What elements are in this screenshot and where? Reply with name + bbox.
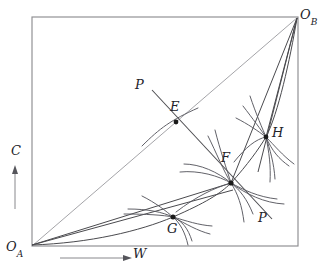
point-label-h: H bbox=[272, 126, 283, 139]
w-axis-arrow-head bbox=[123, 255, 132, 261]
edgeworth-box-figure: OB OA C W P E F G H P bbox=[0, 0, 331, 271]
c-axis-arrow-head bbox=[12, 165, 18, 174]
c-axis-label: C bbox=[11, 144, 21, 157]
point-h bbox=[264, 135, 269, 140]
origin-ob-subscript: B bbox=[311, 17, 318, 27]
point-e bbox=[174, 120, 179, 125]
point-label-f: F bbox=[221, 151, 230, 164]
indifference-curve-g-d1 bbox=[173, 217, 212, 226]
point-label-g: G bbox=[167, 222, 177, 235]
ray-oa-lower bbox=[32, 190, 233, 245]
price-line-label-lower: P bbox=[258, 211, 267, 224]
w-axis-label: W bbox=[133, 247, 146, 260]
point-label-e: E bbox=[170, 100, 180, 113]
indifference-curve-h-b1 bbox=[243, 106, 266, 137]
origin-ob-letter: O bbox=[300, 7, 311, 22]
origin-label-ob: OB bbox=[300, 8, 317, 25]
origin-label-oa: OA bbox=[6, 240, 23, 257]
price-line-label-upper: P bbox=[135, 78, 144, 91]
origin-oa-letter: O bbox=[6, 239, 17, 254]
origin-oa-subscript: A bbox=[17, 249, 24, 259]
point-g bbox=[171, 215, 176, 220]
point-f bbox=[228, 180, 233, 185]
